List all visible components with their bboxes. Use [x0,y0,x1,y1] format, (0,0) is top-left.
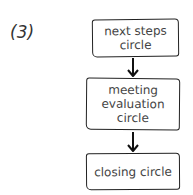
node-text-line: circle [104,38,167,53]
node-next-steps-circle: next steps circle [92,19,179,58]
node-text-line: evaluation [101,97,164,112]
node-closing-circle: closing circle [86,153,180,191]
node-text-line: next steps [104,24,167,39]
arrow-down-icon [126,130,140,153]
node-text-line: meeting [101,83,164,98]
node-meeting-evaluation-circle: meeting evaluation circle [86,78,180,131]
node-text-line: closing circle [94,164,172,179]
step-number-label: (3) [10,22,34,42]
arrow-down-icon [126,57,140,78]
node-text-line: circle [101,111,164,126]
